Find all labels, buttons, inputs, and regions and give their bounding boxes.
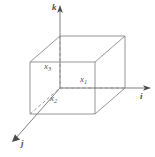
j-axis-arrowhead <box>12 134 20 142</box>
x2-subscript: 2 <box>54 97 57 104</box>
k-axis-label: k <box>52 3 57 12</box>
x1-label: x1 <box>80 75 87 84</box>
j-axis-label: j <box>21 139 24 148</box>
i-axis-label: i <box>140 92 143 101</box>
x3-subscript: 3 <box>48 65 51 72</box>
figure-container: k i j x3 x1 x2 <box>0 0 155 157</box>
cube-visible-edges <box>30 36 125 114</box>
depth-edge-top-left <box>30 36 60 62</box>
x3-label: x3 <box>44 62 51 71</box>
depth-edge-bottom-right <box>95 88 125 114</box>
cube-hidden-edges <box>30 36 125 114</box>
coordinate-cube-svg <box>0 0 155 157</box>
x2-label: x2 <box>50 94 57 103</box>
depth-edge-top-right <box>95 36 125 62</box>
x1-subscript: 1 <box>84 78 87 85</box>
